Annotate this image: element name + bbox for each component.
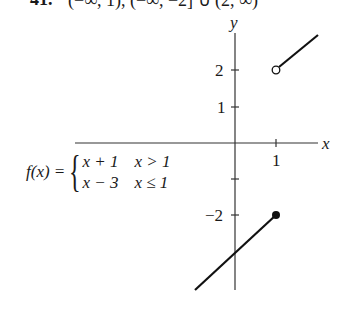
case-condition: x > 1 — [134, 151, 170, 172]
case-condition: x ≤ 1 — [134, 172, 168, 193]
y-tick-label-1: 1 — [217, 98, 226, 117]
filled-circle-marker — [272, 211, 280, 219]
x-tick-label-1: 1 — [272, 151, 281, 170]
case-row: x − 3 x ≤ 1 — [82, 172, 170, 193]
x-axis-label: x — [321, 134, 330, 153]
open-circle-marker — [272, 66, 280, 74]
left-brace-icon: { — [69, 150, 81, 194]
case-expression: x − 3 — [82, 172, 134, 193]
y-tick-label-2: 2 — [215, 61, 224, 80]
case-expression: x + 1 — [82, 151, 134, 172]
upper-piece-line — [279, 35, 318, 67]
case-row: x + 1 x > 1 — [82, 151, 170, 172]
y-axis-label: y — [228, 13, 238, 32]
cases: x + 1 x > 1 x − 3 x ≤ 1 — [82, 151, 170, 193]
function-name: f(x) = — [26, 162, 65, 182]
piecewise-function-definition: f(x) = { x + 1 x > 1 x − 3 x ≤ 1 — [26, 150, 170, 194]
y-tick-label-neg2: −2 — [205, 206, 223, 225]
